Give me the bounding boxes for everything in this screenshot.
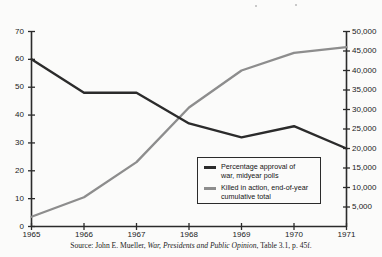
right-axis-tick-label: 35,000 — [352, 86, 382, 94]
scan-speck — [255, 5, 257, 7]
left-axis-tick-label: 20 — [0, 167, 24, 175]
legend-item-killed: Killed in action, end-of-year cumulative… — [204, 184, 315, 201]
x-axis-tick-label: 1970 — [274, 231, 314, 239]
legend-label-approval: Percentage approval of war, midyear poll… — [221, 163, 295, 180]
right-axis-tick-label: 15,000 — [352, 164, 382, 172]
legend-item-approval: Percentage approval of war, midyear poll… — [204, 163, 315, 180]
x-axis-tick-label: 1968 — [169, 231, 209, 239]
left-axis-tick-label: 40 — [0, 111, 24, 119]
legend-approval-line2: war, midyear polls — [221, 171, 279, 180]
x-axis-tick-label: 1965 — [12, 231, 52, 239]
right-axis-tick-label: 40,000 — [352, 67, 382, 75]
legend-swatch-killed — [204, 187, 216, 190]
left-axis-tick-label: 10 — [0, 195, 24, 203]
right-axis-tick-label: 5,000 — [352, 203, 382, 211]
x-axis-tick-label: 1969 — [222, 231, 262, 239]
left-axis-tick-label: 60 — [0, 55, 24, 63]
chart-legend: Percentage approval of war, midyear poll… — [197, 157, 321, 204]
series-line-approval — [32, 59, 347, 148]
left-axis-tick-label: 0 — [0, 223, 24, 231]
source-suffix: , Table 3.1, p. 45f. — [257, 241, 312, 250]
legend-label-killed: Killed in action, end-of-year cumulative… — [221, 184, 308, 201]
chart-figure: 010203040506070 5,00010,00015,00020,0002… — [0, 0, 382, 257]
legend-killed-line2: cumulative total — [221, 192, 271, 201]
left-axis-tick-label: 30 — [0, 139, 24, 147]
source-prefix: Source: John E. Mueller, — [70, 241, 147, 250]
source-caption: Source: John E. Mueller, War, Presidents… — [0, 241, 382, 250]
right-axis-tick-label: 30,000 — [352, 106, 382, 114]
x-axis-tick-label: 1966 — [64, 231, 104, 239]
source-title: War, Presidents and Public Opinion — [148, 241, 257, 250]
chart-plot-area — [0, 0, 382, 257]
left-axis-tick-label: 50 — [0, 83, 24, 91]
right-axis-tick-label: 50,000 — [352, 28, 382, 36]
right-axis-tick-label: 20,000 — [352, 145, 382, 153]
right-axis-tick-label: 45,000 — [352, 47, 382, 55]
right-axis-tick-label: 25,000 — [352, 125, 382, 133]
scan-speck — [295, 4, 297, 6]
legend-swatch-approval — [204, 166, 216, 169]
right-axis-tick-label: 10,000 — [352, 184, 382, 192]
x-axis-tick-label: 1967 — [117, 231, 157, 239]
left-axis-tick-label: 70 — [0, 28, 24, 36]
x-axis-tick-label: 1971 — [327, 231, 367, 239]
